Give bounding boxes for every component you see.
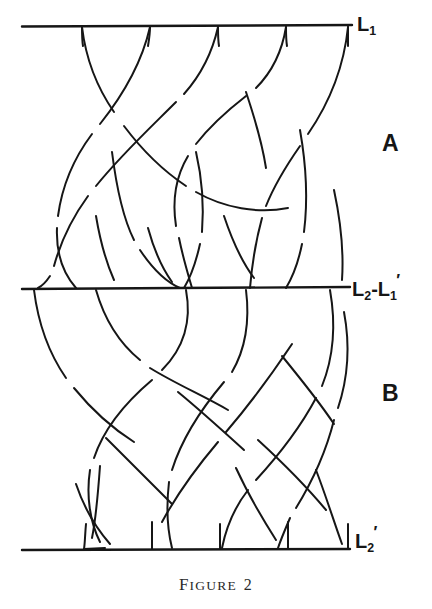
strand-a-3-seg1 (184, 27, 218, 94)
strand-b-5-seg3 (222, 490, 248, 548)
strand-b-11-seg1 (338, 312, 347, 408)
label-region-b: B (382, 382, 399, 405)
strand-a-12-seg1 (334, 190, 343, 280)
strand-b-4-seg1 (232, 290, 247, 372)
label-line-L2prime: L2′ (355, 527, 378, 551)
braid-diagram (0, 0, 432, 609)
bottom-stem-1 (84, 524, 86, 549)
strand-a-5-seg3 (250, 218, 262, 288)
strand-b-4-seg3 (168, 482, 172, 548)
strand-a-2-seg3 (57, 228, 76, 288)
label-region-a: A (382, 132, 399, 155)
strand-b-2-seg2 (150, 368, 228, 410)
caption-number: 2 (244, 576, 253, 593)
strand-a-4-seg1 (256, 27, 286, 88)
label-L1-subscript: 1 (369, 24, 376, 38)
strand-a-1-seg2 (124, 126, 186, 186)
label-L2prime-subscript: 2 (367, 541, 374, 555)
strand-a-4-seg3 (175, 156, 189, 226)
line-L2prime (22, 549, 350, 550)
strand-a-1-seg3 (196, 192, 288, 210)
strand-b-10-seg1 (226, 344, 292, 432)
strand-a-10-seg1 (96, 216, 114, 280)
label-mid-base-right: L (378, 278, 390, 300)
strand-b-2-seg1 (96, 290, 140, 360)
strand-b-3-seg1 (162, 290, 188, 370)
strand-b-10-seg2 (162, 442, 218, 522)
line-L2-L1prime (22, 287, 350, 289)
strand-a-9-seg1 (300, 130, 306, 232)
top-stem-1 (82, 27, 83, 46)
top-stem-4 (286, 27, 287, 46)
strand-b-5-seg1 (322, 290, 333, 386)
label-line-L2-L1prime: L2-L1′ (352, 275, 401, 299)
strand-b-3-seg4 (84, 548, 105, 549)
caption-word-first: F (179, 575, 190, 594)
line-L1 (22, 25, 352, 27)
caption-word-rest: IGURE (190, 578, 237, 593)
label-mid-separator: - (371, 278, 378, 300)
strand-a-1-seg1 (82, 27, 114, 112)
strand-a-11-seg1 (224, 216, 254, 278)
strand-b-8-seg1 (258, 440, 326, 510)
strand-a-9-seg2 (286, 244, 302, 288)
strand-a-6-seg2 (140, 250, 180, 288)
strand-b-15-seg1 (316, 470, 342, 544)
strand-a-4-seg2 (196, 96, 246, 144)
label-L2prime-base: L (355, 530, 367, 552)
label-mid-subscript-right: 1 (390, 289, 397, 303)
strand-a-5-seg1 (308, 27, 348, 134)
label-L2prime-prime: ′ (374, 524, 378, 541)
strand-b-7-seg1 (106, 438, 172, 504)
strand-a-2-seg1 (100, 27, 150, 124)
label-mid-base-left: L (352, 278, 364, 300)
strand-a-2-seg2 (58, 134, 92, 216)
label-L1-base: L (357, 13, 369, 35)
strand-a-5-seg2 (266, 146, 300, 206)
strand-b-11-seg2 (296, 420, 334, 508)
label-line-L1: L1 (357, 14, 376, 34)
label-mid-subscript-left: 2 (364, 289, 371, 303)
top-stem-3 (218, 27, 219, 46)
label-mid-prime: ′ (396, 272, 400, 289)
strand-b-1-seg1 (34, 290, 66, 378)
figure-caption: FIGURE2 (0, 575, 432, 595)
strand-a-3-seg4 (38, 276, 50, 288)
strand-a-7-seg1 (246, 92, 266, 168)
figure-2-container: L1 L2-L1′ L2′ A B FIGURE2 (0, 0, 432, 609)
strand-a-4-seg4 (179, 238, 192, 288)
